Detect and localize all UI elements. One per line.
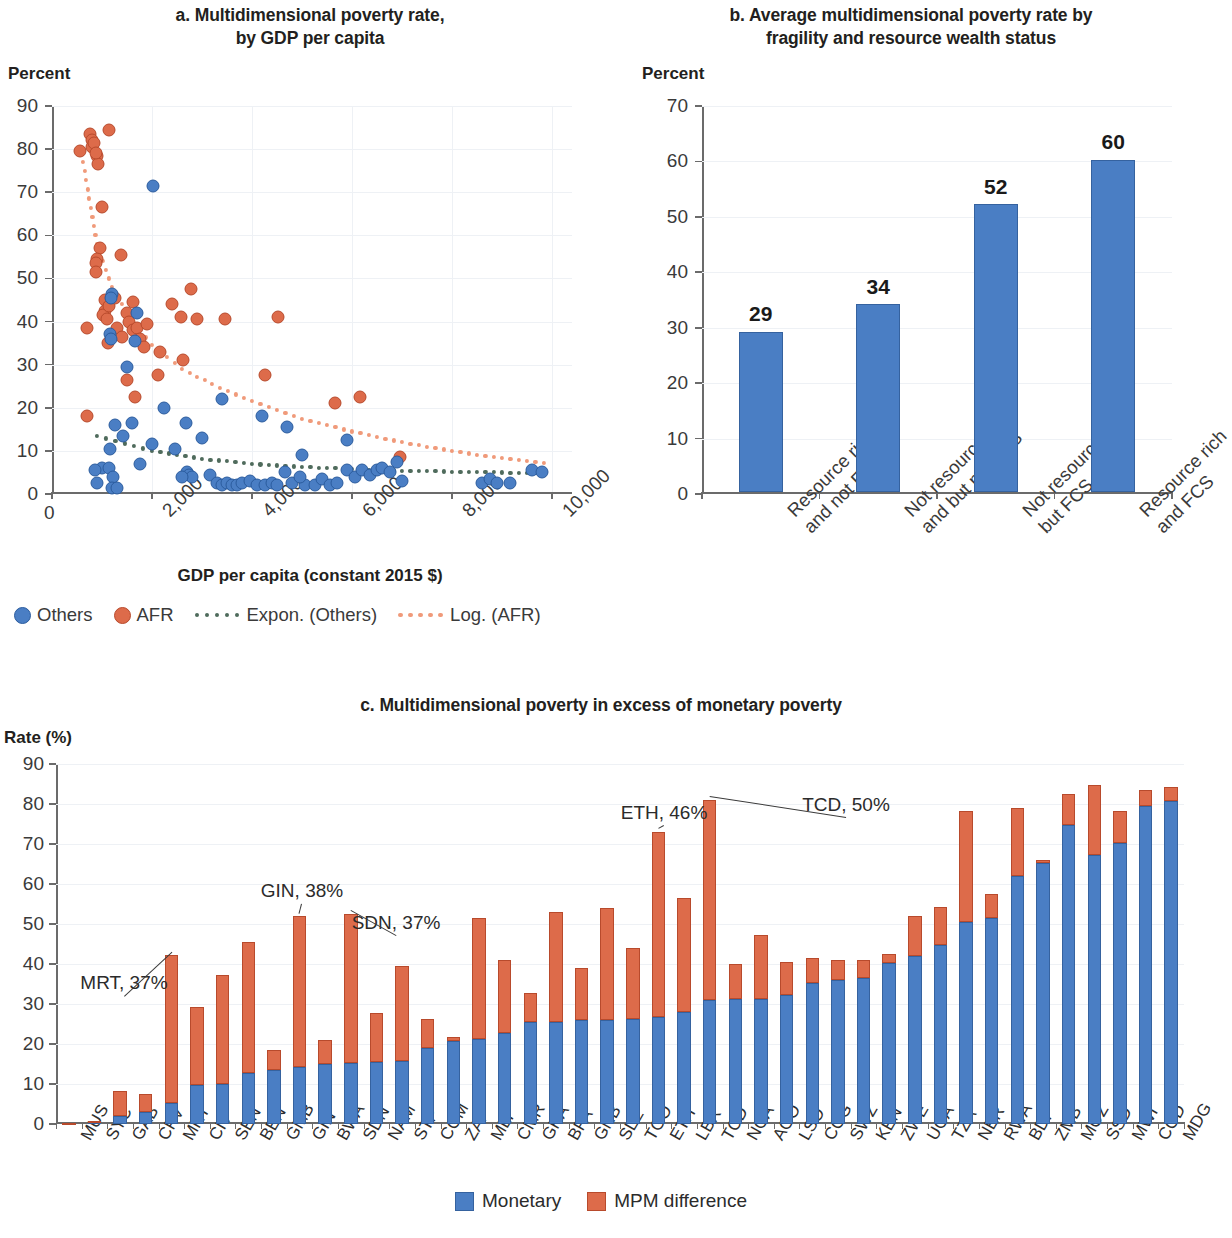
- panel-c-bar-segment-monetary: [1062, 825, 1076, 1124]
- panel-a-y-tick-label: 20: [17, 397, 38, 419]
- panel-c-bar-segment-mpm: [780, 962, 794, 995]
- panel-b-y-axis: [702, 106, 704, 494]
- trendline-dot: [195, 374, 199, 378]
- panel-c-y-tick-label: 60: [23, 873, 44, 895]
- panel-c-bar-segment-monetary: [318, 1064, 332, 1124]
- panel-c-bar-segment-monetary: [1113, 843, 1127, 1124]
- panel-c-y-tick-label: 50: [23, 913, 44, 935]
- panel-c-bar-segment-mpm: [267, 1050, 281, 1070]
- panel-c-bar-segment-mpm: [652, 832, 666, 1017]
- scatter-point: [166, 298, 179, 311]
- panel-c-bar-segment-monetary: [780, 995, 794, 1124]
- trendline-dot: [107, 276, 111, 280]
- panel-c-plot-area: 0102030405060708090MUSSYCGABCPVMRTCIVSEN…: [56, 764, 1184, 1124]
- trendline-dot: [132, 444, 136, 448]
- trendline-dot: [333, 425, 337, 429]
- trendline-dot: [375, 435, 379, 439]
- panel-c-bar-segment-monetary: [754, 999, 768, 1124]
- panel-c-bar-segment-mpm: [216, 975, 230, 1084]
- trendline-dot: [392, 438, 396, 442]
- annotation-leader-line: [658, 825, 664, 829]
- panel-c-bar-segment-monetary: [652, 1017, 666, 1124]
- panel-c-bar-segment-mpm: [703, 800, 717, 1000]
- scatter-point: [157, 401, 170, 414]
- square-marker-icon: [455, 1192, 474, 1211]
- panel-c-y-tick-label: 0: [33, 1113, 44, 1135]
- scatter-point: [153, 345, 166, 358]
- trendline-dot: [425, 469, 429, 473]
- panel-c-bar-segment-monetary: [139, 1112, 153, 1124]
- panel-c-bar-segment-monetary: [831, 980, 845, 1124]
- panel-c-bar-segment-mpm: [472, 918, 486, 1039]
- scatter-point: [90, 147, 103, 160]
- trendline-dot: [500, 470, 504, 474]
- trendline-dot: [86, 187, 90, 191]
- panel-c-bar-segment-monetary: [216, 1084, 230, 1124]
- scatter-point: [293, 470, 306, 483]
- panel-c-legend: Monetary MPM difference: [0, 1190, 1202, 1212]
- scatter-point: [272, 311, 285, 324]
- trendline-dot: [300, 465, 304, 469]
- scatter-point: [341, 434, 354, 447]
- panel-c-bar-segment-mpm: [88, 1121, 102, 1123]
- annotation-sdn: SDN, 37%: [352, 912, 441, 934]
- panel-b-bar: [856, 304, 900, 492]
- panel-b-y-tick-label: 0: [677, 483, 688, 505]
- panel-c-bar-segment-monetary: [267, 1070, 281, 1124]
- panel-b-plot-area: 01020304050607029Resource richand not FC…: [702, 106, 1172, 494]
- scatter-point: [117, 429, 130, 442]
- trendline-dot: [308, 419, 312, 423]
- panel-c-bar-segment-monetary: [370, 1062, 384, 1124]
- trendline-dot: [442, 469, 446, 473]
- scatter-point: [105, 332, 118, 345]
- panel-b-bar: [1091, 160, 1135, 493]
- trendline-dot: [225, 459, 229, 463]
- trendline-dot: [267, 463, 271, 467]
- panel-c-bar-segment-mpm: [754, 935, 768, 999]
- dotted-line-icon: [398, 613, 444, 618]
- panel-c-bar-segment-monetary: [908, 956, 922, 1124]
- trendline-dot: [433, 446, 437, 450]
- panel-a-y-tick-label: 30: [17, 354, 38, 376]
- trendline-dot: [467, 470, 471, 474]
- panel-c-bar-segment-mpm: [318, 1040, 332, 1064]
- panel-b-y-tick-label: 10: [667, 428, 688, 450]
- panel-a-y-axis: [52, 106, 54, 494]
- panel-a-y-tick-label: 80: [17, 138, 38, 160]
- scatter-point: [176, 470, 189, 483]
- panel-c-bar-segment-monetary: [498, 1033, 512, 1124]
- panel-b-bar: [974, 204, 1018, 492]
- panel-c-bar-segment-monetary: [524, 1022, 538, 1124]
- panel-c-bar-segment-monetary: [1036, 863, 1050, 1124]
- circle-marker-icon: [14, 607, 31, 624]
- panel-c-bar-segment-mpm: [1113, 811, 1127, 843]
- annotation-gin: GIN, 38%: [261, 880, 343, 902]
- legend-item-monetary: Monetary: [455, 1190, 561, 1212]
- panel-c-bar-segment-mpm: [677, 898, 691, 1012]
- panel-b-bar: [739, 332, 783, 493]
- scatter-point: [216, 393, 229, 406]
- trendline-dot: [325, 466, 329, 470]
- scatter-point: [191, 313, 204, 326]
- panel-b-bar-value-label: 60: [1102, 130, 1125, 154]
- panel-c-bar-segment-monetary: [626, 1019, 640, 1124]
- trendline-dot: [165, 355, 169, 359]
- panel-c-bar-segment-mpm: [421, 1019, 435, 1048]
- trendline-dot: [400, 440, 404, 444]
- trendline-dot: [234, 392, 238, 396]
- panel-c-bar-segment-monetary: [472, 1039, 486, 1124]
- trendline-dot: [350, 429, 354, 433]
- panel-c-bar-segment-mpm: [447, 1037, 461, 1041]
- panel-c-stacked-bar-chart: c. Multidimensional poverty in excess of…: [0, 690, 1202, 1238]
- scatter-point: [258, 369, 271, 382]
- panel-c-bar-segment-monetary: [729, 999, 743, 1124]
- panel-c-bar-segment-monetary: [1164, 801, 1178, 1124]
- trendline-dot: [292, 464, 296, 468]
- trendline-dot: [450, 449, 454, 453]
- trendline-dot: [542, 461, 546, 465]
- panel-b-y-tick-label: 40: [667, 261, 688, 283]
- legend-label-expon-others: Expon. (Others): [247, 604, 378, 626]
- panel-c-bar-segment-mpm: [959, 811, 973, 922]
- panel-c-bar-segment-monetary: [549, 1022, 563, 1124]
- panel-c-y-tick-label: 80: [23, 793, 44, 815]
